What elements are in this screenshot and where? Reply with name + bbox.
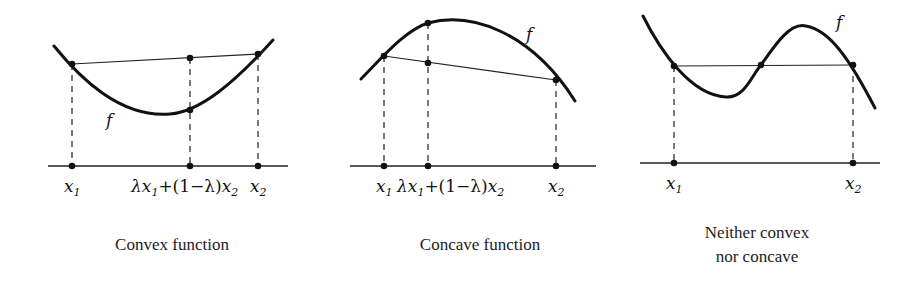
- point-marker: [425, 163, 432, 170]
- panel-caption: Convex function: [115, 235, 229, 254]
- point-marker: [553, 163, 560, 170]
- point-marker: [187, 107, 194, 114]
- tick-label: λx1+(1−λ)x2: [130, 176, 238, 199]
- secant-chord: [72, 54, 258, 64]
- function-curve: [54, 40, 273, 114]
- curve-label-f: f: [524, 24, 535, 44]
- point-marker: [381, 53, 388, 60]
- point-marker: [69, 61, 76, 68]
- point-marker: [671, 160, 678, 167]
- point-marker: [69, 163, 76, 170]
- panel-neither: fx1x2Neither convexnor concave: [640, 12, 880, 266]
- curve-label-f: f: [104, 110, 115, 130]
- point-marker: [255, 163, 262, 170]
- panel-convex: fx1λx1+(1−λ)x2x2Convex function: [48, 40, 288, 254]
- panel-caption: nor concave: [716, 247, 799, 266]
- point-marker: [425, 20, 432, 27]
- tick-label: x1: [666, 173, 683, 196]
- tick-label: x2: [845, 173, 862, 196]
- point-marker: [671, 63, 678, 70]
- tick-label: x1: [64, 176, 81, 199]
- panel-caption: Concave function: [420, 235, 541, 254]
- point-marker: [553, 77, 560, 84]
- tick-label: x2: [548, 176, 565, 199]
- tick-label: x1: [376, 176, 393, 199]
- point-marker: [187, 55, 194, 62]
- tick-label: λx1+(1−λ)x2: [396, 176, 504, 199]
- tick-label: x2: [250, 176, 267, 199]
- point-marker: [850, 62, 857, 69]
- point-marker: [187, 163, 194, 170]
- panel-concave: fx1λx1+(1−λ)x2x2Concave function: [350, 20, 596, 254]
- point-marker: [381, 163, 388, 170]
- point-marker: [758, 62, 765, 69]
- function-curve: [361, 20, 575, 101]
- point-marker: [255, 51, 262, 58]
- point-marker: [850, 160, 857, 167]
- convexity-diagram: fx1λx1+(1−λ)x2x2Convex function fx1λx1+(…: [0, 0, 922, 284]
- point-marker: [425, 60, 432, 67]
- secant-chord: [384, 56, 556, 80]
- curve-label-f: f: [834, 12, 845, 32]
- panel-caption: Neither convex: [705, 223, 810, 242]
